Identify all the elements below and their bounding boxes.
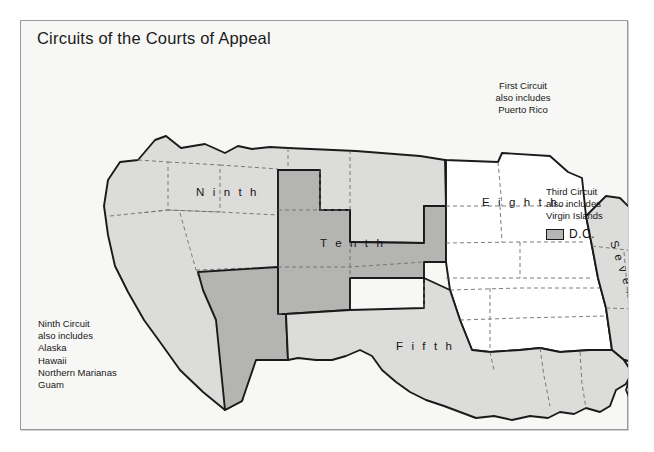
- circuit-label-tenth: T e n t h: [320, 237, 385, 249]
- page-title: Circuits of the Courts of Appeal: [37, 29, 271, 48]
- dc-legend-label: D.C.: [569, 227, 595, 241]
- circuit-label-ninth: N i n t h: [196, 186, 259, 198]
- circuit-label-fifth: F i f t h: [396, 340, 455, 352]
- dc-legend-swatch: [546, 229, 564, 240]
- note-third-circuit: Third Circuit also includes Virgin Islan…: [546, 186, 640, 223]
- circuit-region-eighth[interactable]: [445, 153, 612, 352]
- dc-legend: D.C.: [546, 227, 595, 241]
- note-first-circuit: First Circuit also includes Puerto Rico: [478, 80, 568, 117]
- map-page: .w { fill:#ffffff; stroke:#1a1a1a; strok…: [0, 0, 654, 452]
- note-ninth-circuit: Ninth Circuit also includes Alaska Hawai…: [38, 318, 178, 391]
